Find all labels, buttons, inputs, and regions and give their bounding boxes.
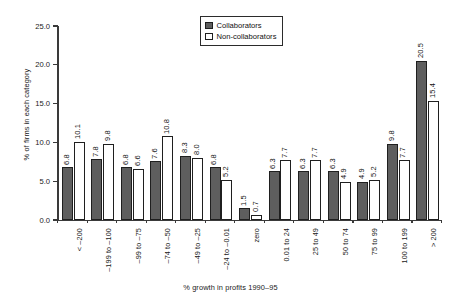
bar-group: 6.85.2 [210,26,233,220]
x-tick [234,220,235,223]
bar-non-collaborators [251,215,262,220]
bar-group: 9.87.7 [387,26,410,220]
bar-value-label: 9.8 [387,131,396,142]
bar-value-label: 7.6 [150,148,159,159]
plot-area: 6.810.17.89.86.86.67.610.88.38.06.85.21.… [57,26,441,220]
legend-swatch-collab [205,22,213,30]
bar-value-label: 7.7 [398,147,407,158]
bar-group: 6.37.7 [298,26,321,220]
bar-collaborators [62,167,73,220]
chart-legend: CollaboratorsNon-collaborators [200,16,283,46]
x-tick [293,220,294,223]
bar-value-label: 6.8 [209,154,218,165]
x-category-label: –49 to –25 [193,228,202,284]
bar-value-label: 20.5 [416,43,425,58]
legend-item: Collaborators [205,20,276,31]
bar-value-label: 8.0 [192,145,201,156]
bar-value-label: 4.9 [357,169,366,180]
bar-non-collaborators [310,160,321,220]
y-tick-label: 0.0 [20,216,50,225]
x-tick [146,220,147,223]
legend-label: Collaborators [217,21,262,30]
bar-collaborators [269,171,280,220]
bar-value-label: 6.3 [268,158,277,169]
x-axis-title: % growth in profits 1990–95 [0,283,461,292]
bar-collaborators [180,156,191,220]
bar-collaborators [210,167,221,220]
x-tick [205,220,206,223]
bar-non-collaborators [280,160,291,220]
legend-label: Non-collaborators [217,32,277,41]
bar-value-label: 10.1 [73,124,82,139]
bar-value-label: 1.5 [239,195,248,206]
y-tick-label: 25.0 [20,22,50,31]
bar-value-label: 5.2 [369,166,378,177]
bar-value-label: 7.7 [280,147,289,158]
x-tick [57,220,58,223]
x-category-label: 100 to 199 [400,228,409,284]
bar-group: 6.86.6 [121,26,144,220]
x-category-label: 0.01 to 24 [282,228,291,284]
bar-group: 6.810.1 [62,26,85,220]
bar-value-label: 9.8 [103,131,112,142]
bar-non-collaborators [74,142,85,220]
bar-collaborators [121,167,132,220]
y-tick-label: 5.0 [20,177,50,186]
bar-collaborators [328,171,339,220]
bar-group: 7.89.8 [91,26,114,220]
bar-value-label: 6.3 [298,158,307,169]
bar-non-collaborators [399,160,410,220]
bar-value-label: 5.2 [221,166,230,177]
x-tick [87,220,88,223]
bar-value-label: 7.8 [91,146,100,157]
x-category-label: < –200 [75,228,84,284]
bar-non-collaborators [192,158,203,220]
profit-growth-bar-chart: % of firms in each category 6.810.17.89.… [0,0,461,297]
y-tick-label: 15.0 [20,99,50,108]
y-tick [53,181,59,182]
y-tick [53,142,59,143]
bar-value-label: 6.6 [133,156,142,167]
x-category-label: –99 to –75 [134,228,143,284]
x-category-label: 50 to 74 [341,228,350,284]
legend-swatch-noncollab [205,33,213,41]
bar-non-collaborators [369,180,380,220]
bar-non-collaborators [103,144,114,220]
bar-non-collaborators [221,180,232,220]
x-axis-category-labels: < –200–199 to –100–99 to –75–74 to –50–4… [57,228,441,284]
x-tick [116,220,117,223]
bar-group: 7.610.8 [150,26,173,220]
x-tick [352,220,353,223]
bar-collaborators [357,182,368,220]
bar-collaborators [387,144,398,220]
bar-group: 6.34.9 [328,26,351,220]
bar-group: 6.37.7 [269,26,292,220]
bar-collaborators [298,171,309,220]
y-axis-line [57,26,59,220]
bar-value-label: 15.4 [428,83,437,98]
bar-value-label: 6.8 [62,154,71,165]
y-tick-label: 20.0 [20,60,50,69]
bar-non-collaborators [340,182,351,220]
y-tick [53,25,59,26]
bar-value-label: 7.7 [310,147,319,158]
x-category-label: 25 to 49 [311,228,320,284]
bar-value-label: 0.7 [251,201,260,212]
x-tick [382,220,383,223]
bar-group: 20.515.4 [416,26,439,220]
x-category-label: –24 to –0.01 [222,228,231,284]
bar-value-label: 4.9 [339,169,348,180]
x-category-label: > 200 [429,228,438,284]
x-axis-line [57,220,441,221]
x-tick [264,220,265,223]
bar-collaborators [91,159,102,220]
bar-group: 4.95.2 [357,26,380,220]
bar-collaborators [150,161,161,220]
y-tick-label: 10.0 [20,138,50,147]
bar-value-label: 10.8 [162,119,171,134]
bar-collaborators [416,61,427,220]
bar-value-label: 8.3 [180,142,189,153]
bar-group: 8.38.0 [180,26,203,220]
y-tick [53,103,59,104]
bar-collaborators [239,208,250,220]
